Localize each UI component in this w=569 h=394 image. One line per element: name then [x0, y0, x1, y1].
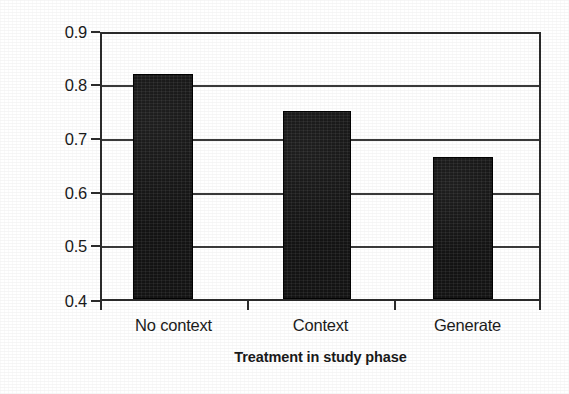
- plot-area: [100, 32, 541, 301]
- y-tick-label-0_6: 0.6: [65, 183, 87, 203]
- y-tick-0_6: 0.6: [0, 183, 100, 203]
- x-category-label-context: Context: [247, 312, 394, 338]
- y-tick-label-0_7: 0.7: [65, 129, 87, 149]
- y-tick-mark-0_7: [91, 138, 100, 140]
- y-tick-mark-0_9: [91, 31, 100, 33]
- y-axis-title-text: Probability of identification: [23, 0, 45, 22]
- y-tick-mark-0_8: [91, 84, 100, 86]
- x-tick-start: [100, 301, 102, 310]
- x-axis-title: Treatment in study phase: [100, 349, 541, 365]
- y-tick-label-0_9: 0.9: [65, 22, 87, 42]
- bar-context[interactable]: [283, 111, 351, 299]
- y-tick-0_5: 0.5: [0, 236, 100, 256]
- y-tick-0_8: 0.8: [0, 75, 100, 95]
- bar-generate[interactable]: [433, 157, 493, 299]
- y-tick-0_4: 0.4: [0, 291, 100, 311]
- x-category-label-no-context: No context: [100, 312, 247, 338]
- y-tick-mark-0_6: [91, 192, 100, 194]
- y-tick-label-0_4: 0.4: [65, 291, 87, 311]
- bar-no-context[interactable]: [133, 74, 193, 299]
- y-tick-mark-0_4: [91, 300, 100, 302]
- bar-chart-figure: Probability of identification 0.9 0.8 0.…: [0, 0, 569, 394]
- y-tick-0_7: 0.7: [0, 129, 100, 149]
- x-tick-2: [394, 301, 396, 310]
- y-tick-mark-0_5: [91, 245, 100, 247]
- x-tick-end: [539, 301, 541, 310]
- y-tick-label-0_5: 0.5: [65, 236, 87, 256]
- y-tick-label-0_8: 0.8: [65, 75, 87, 95]
- y-tick-0_9: 0.9: [0, 22, 100, 42]
- x-category-label-generate: Generate: [394, 312, 541, 338]
- x-tick-1: [247, 301, 249, 310]
- y-axis-title: Probability of identification: [23, 0, 45, 22]
